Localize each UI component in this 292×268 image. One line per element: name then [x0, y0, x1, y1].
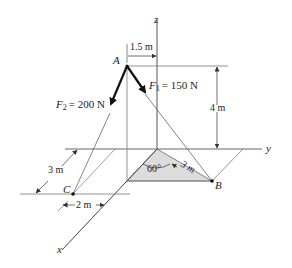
point-b-dot [210, 179, 214, 183]
force-f1-label: F1= 150 N [148, 79, 198, 93]
point-a-label: A [112, 54, 120, 66]
ground-line-b [212, 149, 243, 181]
point-a-dot [126, 65, 129, 68]
point-b-label: B [215, 179, 222, 191]
dim-3m-c-arrow1 [62, 150, 77, 166]
force-f2-label: F2= 200 N [55, 98, 105, 112]
angle-label: 60° [147, 163, 161, 174]
x-axis-label: x [56, 243, 62, 255]
y-axis-label: y [265, 142, 271, 154]
dim-1-5m-label: 1.5 m [130, 41, 153, 52]
cable-ac [73, 113, 110, 194]
force-f2-arrow [111, 66, 127, 104]
point-c-label: C [63, 183, 71, 195]
dim-2m-ext [58, 201, 68, 211]
ground-line-c2 [73, 149, 115, 194]
dim-3m-c-arrow2 [36, 181, 48, 193]
dim-2m-label: 2 m [76, 199, 92, 210]
force-f1-arrow [127, 66, 145, 92]
z-axis-label: z [153, 13, 159, 25]
dim-3m-c-label: 3 m [48, 164, 64, 175]
dim-4m-label: 4 m [210, 102, 226, 113]
statics-diagram: z y x A B C F1= 150 N F2= 200 N 1.5 m 4 … [0, 0, 292, 268]
point-c-dot [71, 192, 75, 196]
